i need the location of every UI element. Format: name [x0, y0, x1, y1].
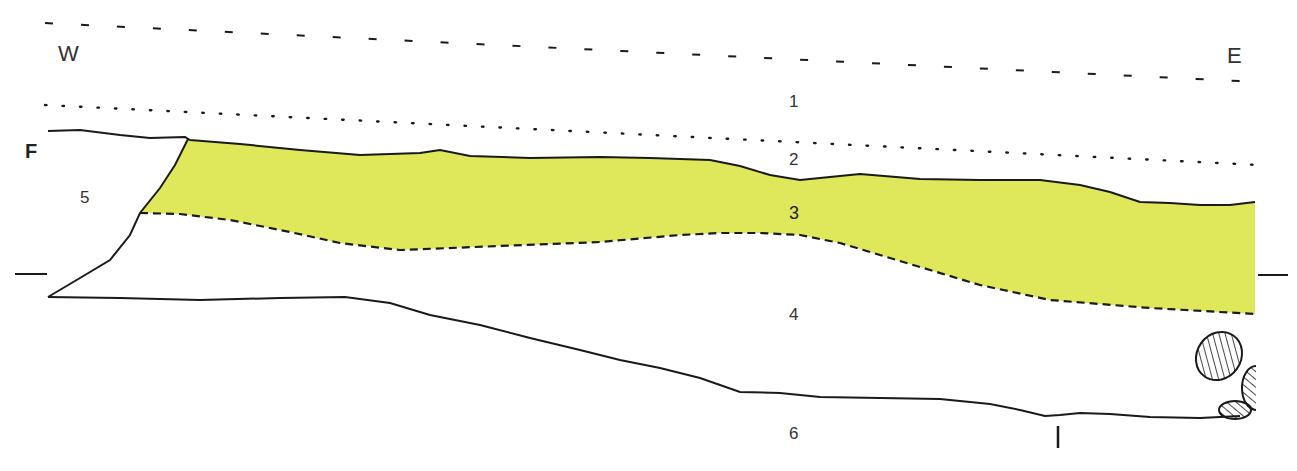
east-label: E	[1227, 45, 1242, 67]
section-drawing	[0, 0, 1297, 471]
stone-large	[1187, 323, 1252, 389]
marker-label-f: F	[25, 141, 37, 161]
layer-label-3: 3	[789, 204, 799, 222]
west-label: W	[58, 43, 79, 65]
layer-label-4: 4	[789, 306, 798, 323]
layer-4-lower-boundary	[48, 297, 1240, 418]
layer-label-5: 5	[80, 189, 89, 206]
section-diagram: W E F 1 2 3 4 5 6	[0, 0, 1297, 471]
hatched-stones	[1187, 323, 1270, 419]
layer-3-fill	[140, 140, 1255, 314]
upper-dashed-boundary	[45, 23, 1258, 82]
layer-5-boundary	[48, 139, 188, 297]
layer-label-6: 6	[789, 425, 798, 442]
layer-label-1: 1	[789, 93, 798, 110]
layer-label-2: 2	[789, 151, 798, 168]
stone-small	[1219, 401, 1251, 419]
